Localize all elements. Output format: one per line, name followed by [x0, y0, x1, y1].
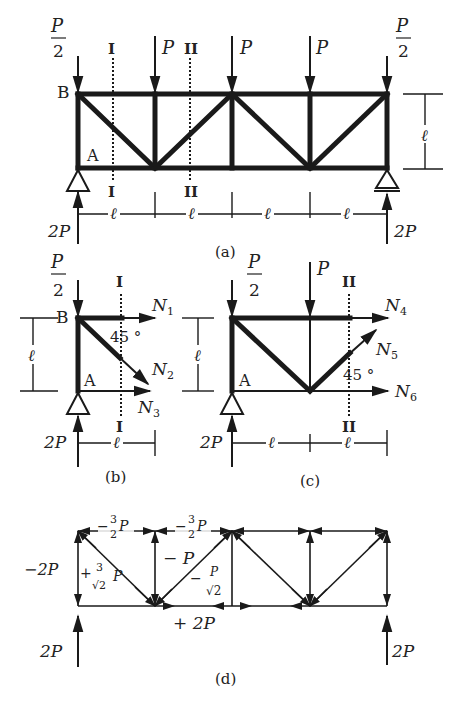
force-N2-arrow	[118, 356, 148, 384]
load-label-end-num: P	[247, 251, 261, 272]
caption-a: (a)	[215, 243, 236, 261]
force-N3-label: N3	[137, 397, 160, 420]
load-label-node2: P	[161, 37, 175, 58]
svg-text:−: −	[190, 570, 202, 586]
svg-text:P: P	[112, 568, 123, 584]
node-label-A: A	[238, 371, 251, 390]
svg-text:−: −	[175, 518, 187, 534]
roller-support-icon	[374, 170, 400, 191]
reaction-label-left: 2P	[39, 641, 63, 661]
member-force-diag2: − P √2	[190, 565, 221, 598]
member-force-vertical2: − P	[163, 548, 195, 568]
member-force-left-vertical: −2P	[24, 560, 59, 579]
svg-text:2: 2	[188, 528, 195, 541]
caption-d: (d)	[215, 670, 236, 688]
node-label-B: B	[56, 307, 69, 327]
svg-text:P: P	[118, 518, 129, 534]
node-label-B: B	[57, 82, 70, 102]
span-dim-4: ℓ	[343, 204, 350, 223]
span-dim-1: ℓ	[268, 433, 275, 452]
panel-d: − 3 2 P − 3 2 P −2P + 3 √2 P − P − P √2 …	[24, 512, 415, 688]
svg-text:2: 2	[110, 528, 117, 541]
section-I-bottom: I	[108, 183, 115, 201]
height-dim: ℓ	[421, 126, 428, 145]
load-label-num: P	[50, 251, 64, 272]
load-label-node3: P	[239, 37, 253, 58]
svg-text:3: 3	[110, 513, 117, 526]
height-dim: ℓ	[194, 346, 201, 365]
member-force-top2: − 3 2 P	[175, 512, 211, 546]
section-label-top: I	[116, 273, 123, 291]
span-dim: ℓ	[113, 433, 120, 452]
caption-b: (b)	[105, 468, 126, 486]
load-label-left-num: P	[50, 15, 64, 36]
section-I-top: I	[108, 40, 115, 58]
span-dim-3: ℓ	[264, 204, 271, 223]
pin-support-icon	[221, 393, 243, 414]
section-label-top: II	[342, 273, 356, 291]
svg-text:P: P	[209, 565, 219, 579]
force-N4-label: N4	[384, 295, 407, 318]
member-force-top1: − 3 2 P	[97, 512, 134, 546]
panel-a: I I II II P 2 P P P P 2 B A	[47, 15, 443, 261]
svg-text:√2: √2	[92, 579, 106, 592]
span-dim-2: ℓ	[344, 433, 351, 452]
section-II-bottom: II	[184, 183, 198, 201]
load-label-den: 2	[53, 280, 64, 300]
angle-label: 45 °	[110, 328, 141, 346]
load-label-mid: P	[316, 258, 330, 279]
reaction-label: 2P	[43, 432, 67, 452]
panel-c: II II P 2 P A 45 ° N4 N5 N6 ℓ ℓ ℓ 2P (c)	[182, 251, 417, 490]
svg-text:3: 3	[96, 561, 103, 574]
node-label-A: A	[86, 146, 99, 165]
truss-figure: I I II II P 2 P P P P 2 B A	[0, 0, 462, 718]
caption-c: (c)	[300, 472, 320, 490]
member-force-diag1: + 3 √2 P	[80, 561, 123, 592]
force-N6-label: N6	[394, 381, 417, 404]
svg-text:+: +	[80, 565, 92, 581]
member-force-bottom-chord: + 2P	[173, 613, 215, 633]
reaction-label-right: 2P	[391, 641, 415, 661]
pin-support-icon	[67, 393, 89, 414]
force-N2-label: N2	[151, 359, 174, 382]
svg-text:√2: √2	[206, 584, 221, 598]
load-label-end-den: 2	[249, 280, 260, 300]
load-label-right-num: P	[395, 15, 409, 36]
span-dim-2: ℓ	[188, 204, 195, 223]
force-N5-label: N5	[375, 339, 398, 362]
panel-b: I I P 2 B A 45 ° N1 N2 N3 ℓ ℓ 2P (b)	[20, 251, 174, 486]
load-label-node4: P	[315, 37, 329, 58]
load-label-right-den: 2	[398, 41, 409, 61]
span-dim-1: ℓ	[110, 204, 117, 223]
reaction-label-right: 2P	[393, 221, 417, 241]
force-N5-arrow	[348, 330, 376, 355]
angle-label: 45 °	[343, 366, 374, 384]
reaction-label: 2P	[199, 432, 223, 452]
height-dim: ℓ	[28, 346, 35, 365]
truss-members	[78, 94, 387, 168]
section-II-top: II	[184, 40, 198, 58]
node-label-A: A	[83, 371, 96, 390]
reaction-label-left: 2P	[47, 221, 71, 241]
svg-text:3: 3	[188, 513, 195, 526]
svg-text:P: P	[196, 518, 207, 534]
pin-support-icon	[67, 170, 89, 191]
force-N1-label: N1	[151, 295, 174, 318]
svg-text:−: −	[97, 518, 109, 534]
load-label-left-den: 2	[53, 41, 64, 61]
